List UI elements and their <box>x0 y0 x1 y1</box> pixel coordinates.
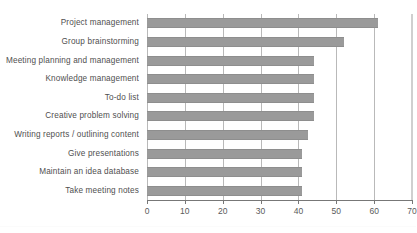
bar <box>147 18 378 28</box>
category-label: Take meeting notes <box>65 185 139 197</box>
bar <box>147 37 344 47</box>
gridline-60 <box>374 14 375 200</box>
category-label: Maintain an idea database <box>39 166 139 178</box>
bar <box>147 130 308 140</box>
x-tick-50 <box>336 200 337 204</box>
x-tick-40 <box>298 200 299 204</box>
category-label: Knowledge management <box>45 73 139 85</box>
chart-title <box>140 0 300 3</box>
x-axis-tick-labels: 010203040506070 <box>147 206 412 220</box>
bar <box>147 74 314 84</box>
x-tick-30 <box>261 200 262 204</box>
bar <box>147 93 314 103</box>
x-tick-label: 0 <box>145 206 150 216</box>
x-tick-label: 60 <box>369 206 378 216</box>
x-tick-label: 30 <box>256 206 265 216</box>
category-label: Project management <box>61 17 139 29</box>
x-tick-label: 20 <box>218 206 227 216</box>
category-axis-labels: Project managementGroup brainstormingMee… <box>0 14 143 200</box>
bar <box>147 111 314 121</box>
plot-area <box>147 14 412 200</box>
category-label: Meeting planning and management <box>6 55 139 67</box>
x-tick-70 <box>412 200 413 204</box>
bar <box>147 167 302 177</box>
bar <box>147 149 302 159</box>
x-tick-label: 50 <box>332 206 341 216</box>
x-axis-ticks <box>147 200 412 205</box>
category-label: Creative problem solving <box>45 110 139 122</box>
x-tick-60 <box>374 200 375 204</box>
x-tick-label: 40 <box>294 206 303 216</box>
bar <box>147 56 314 66</box>
x-tick-20 <box>223 200 224 204</box>
x-tick-label: 10 <box>180 206 189 216</box>
category-label: Writing reports / outlining content <box>14 129 139 141</box>
category-label: Give presentations <box>68 148 139 160</box>
x-tick-10 <box>185 200 186 204</box>
scan-baseline <box>0 226 416 227</box>
category-label: To-do list <box>105 92 139 104</box>
x-tick-0 <box>147 200 148 204</box>
x-tick-label: 70 <box>407 206 416 216</box>
gridline-70 <box>412 14 413 200</box>
bar <box>147 186 302 196</box>
category-label: Group brainstorming <box>62 36 139 48</box>
